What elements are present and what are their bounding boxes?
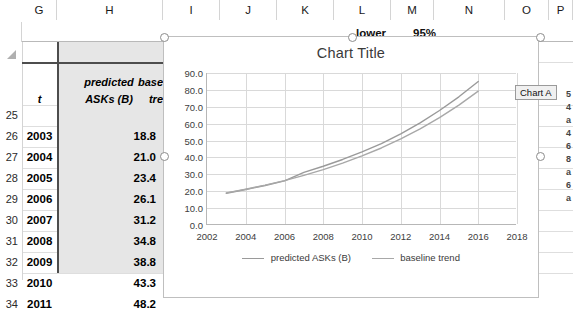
- x-axis-tick-label: 2018: [506, 231, 527, 242]
- cell-value-29[interactable]: 26.1: [57, 189, 161, 210]
- cell-year-26[interactable]: 2003: [22, 126, 57, 147]
- select-all-triangle: [7, 50, 16, 59]
- y-axis-tick-label: 10.0: [167, 203, 203, 214]
- row-header-31[interactable]: 31: [0, 231, 22, 252]
- cell-year-27[interactable]: 2004: [22, 147, 57, 168]
- clipped-column-values: 54a468a6a: [549, 88, 571, 205]
- legend-swatch-predicted: [242, 258, 264, 260]
- legend-label-baseline: baseline trend: [400, 252, 460, 263]
- chart-handle-top-left[interactable]: [160, 33, 169, 42]
- header-cell-baseline-line2[interactable]: tre: [130, 89, 163, 110]
- column-header-h[interactable]: H: [57, 0, 163, 20]
- x-axis-tick-label: 2010: [351, 231, 372, 242]
- x-axis-tick-label: 2012: [390, 231, 411, 242]
- series-line-baseline[interactable]: [226, 91, 478, 193]
- column-header-i[interactable]: I: [163, 0, 220, 20]
- chart-title[interactable]: Chart Title: [164, 45, 538, 61]
- y-axis-tick-label: 20.0: [167, 186, 203, 197]
- row-header-34[interactable]: 34: [0, 294, 22, 312]
- y-axis-tick-label: 60.0: [167, 118, 203, 129]
- x-axis-tick-label: 2014: [429, 231, 450, 242]
- cell-year-29[interactable]: 2006: [22, 189, 57, 210]
- cell-year-30[interactable]: 2007: [22, 210, 57, 231]
- row-header-32[interactable]: 32: [0, 252, 22, 273]
- chart-handle-top-right[interactable]: [536, 33, 545, 42]
- cell-year-31[interactable]: 2008: [22, 231, 57, 252]
- cell-year-34[interactable]: 2011: [22, 294, 57, 312]
- cell-value-26[interactable]: 18.8: [57, 126, 161, 147]
- row-header-29[interactable]: 29: [0, 189, 22, 210]
- chart-handle-middle-right[interactable]: [536, 152, 545, 161]
- column-header-n[interactable]: N: [434, 0, 505, 20]
- legend-label-predicted: predicted ASKs (B): [271, 252, 351, 263]
- y-axis-tick-label: 40.0: [167, 152, 203, 163]
- column-header-l[interactable]: L: [334, 0, 391, 20]
- cell-value-31[interactable]: 34.8: [57, 231, 161, 252]
- column-header-g[interactable]: G: [22, 0, 57, 20]
- row-header-30[interactable]: 30: [0, 210, 22, 231]
- column-header-p[interactable]: P: [549, 0, 573, 20]
- chart-plot-area[interactable]: 0.010.020.030.040.050.060.070.080.090.02…: [206, 73, 516, 225]
- y-axis-tick-label: 90.0: [167, 68, 203, 79]
- column-header-o[interactable]: O: [505, 0, 549, 20]
- row-header-28[interactable]: 28: [0, 168, 22, 189]
- chart-series-svg: [207, 73, 517, 225]
- y-axis-tick-label: 0.0: [167, 220, 203, 231]
- cell-year-28[interactable]: 2005: [22, 168, 57, 189]
- cell-value-30[interactable]: 31.2: [57, 210, 161, 231]
- y-axis-tick-label: 70.0: [167, 101, 203, 112]
- y-axis-tick-label: 80.0: [167, 84, 203, 95]
- chart-handle-top-center[interactable]: [348, 33, 357, 42]
- cell-value-27[interactable]: 21.0: [57, 147, 161, 168]
- selection-border-top: [22, 62, 163, 64]
- x-axis-tick-label: 2002: [196, 231, 217, 242]
- legend-item-predicted[interactable]: predicted ASKs (B): [242, 252, 351, 263]
- embedded-chart[interactable]: Chart Title 0.010.020.030.040.050.060.07…: [163, 36, 539, 298]
- chart-handle-middle-left[interactable]: [160, 152, 169, 161]
- legend-swatch-baseline: [372, 258, 394, 260]
- series-line-predicted[interactable]: [226, 81, 478, 193]
- x-axis-tick-label: 2004: [235, 231, 256, 242]
- cell-year-32[interactable]: 2009: [22, 252, 57, 273]
- cell-value-28[interactable]: 23.4: [57, 168, 161, 189]
- cell-year-33[interactable]: 2010: [22, 273, 57, 294]
- x-axis-tick-label: 2008: [313, 231, 334, 242]
- cell-value-32[interactable]: 38.8: [57, 252, 161, 273]
- row-header-25[interactable]: 25: [0, 105, 22, 126]
- column-header-m[interactable]: M: [391, 0, 434, 20]
- y-axis-tick-label: 50.0: [167, 135, 203, 146]
- y-axis-tick-label: 30.0: [167, 169, 203, 180]
- column-header-k[interactable]: K: [277, 0, 334, 20]
- row-header-26[interactable]: 26: [0, 126, 22, 147]
- x-axis-tick-label: 2016: [468, 231, 489, 242]
- chart-area-tooltip: Chart A: [515, 85, 557, 100]
- cell-value-33[interactable]: 43.3: [57, 273, 161, 294]
- column-header-j[interactable]: J: [220, 0, 277, 20]
- x-axis-tick-label: 2006: [274, 231, 295, 242]
- cell-value-34[interactable]: 48.2: [57, 294, 161, 312]
- legend-item-baseline[interactable]: baseline trend: [372, 252, 460, 263]
- header-cell-t[interactable]: t: [22, 89, 57, 110]
- chart-legend[interactable]: predicted ASKs (B) baseline trend: [164, 252, 538, 263]
- row-header-27[interactable]: 27: [0, 147, 22, 168]
- row-header-33[interactable]: 33: [0, 273, 22, 294]
